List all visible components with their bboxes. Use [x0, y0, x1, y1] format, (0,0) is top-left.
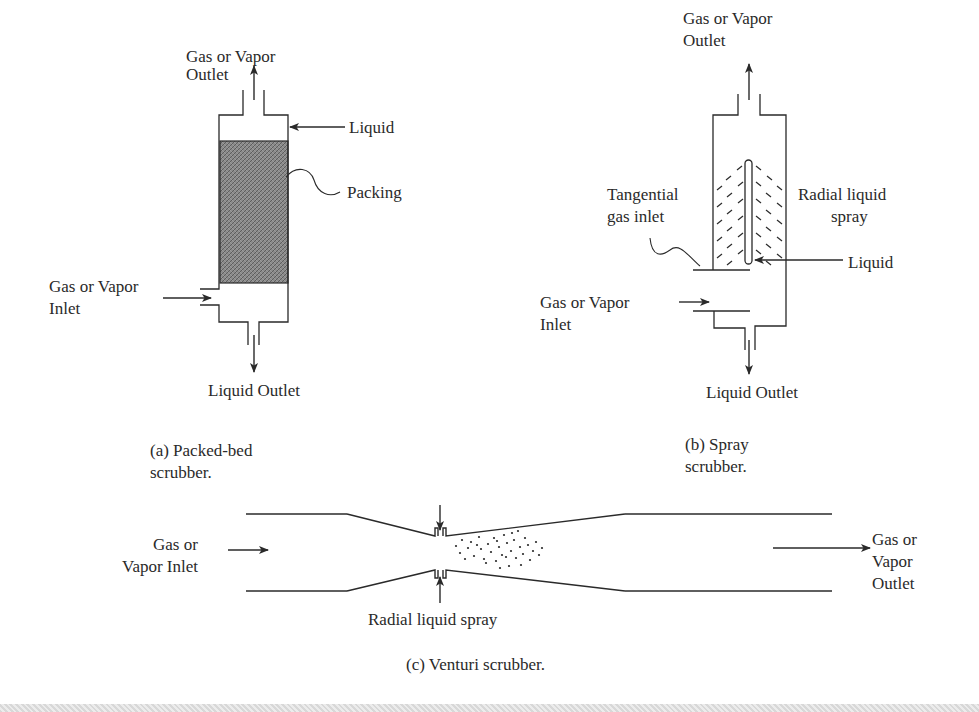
inlet-label-b-2: Inlet: [540, 315, 571, 334]
tangential-label: Tangential: [607, 185, 679, 204]
caption-b: (b) Spray: [685, 435, 749, 454]
packing-label: Packing: [347, 183, 402, 202]
outlet-label-a-2: Outlet: [186, 65, 229, 84]
inlet-label-a-2: Inlet: [49, 299, 80, 318]
scrubber-diagram-figure: Gas or Vapor Outlet Liquid Packing Gas o…: [0, 0, 979, 712]
packing-leader-line: [286, 169, 340, 194]
liquid-label-b: Liquid: [848, 253, 894, 272]
radial-spray-label: Radial liquid: [798, 185, 887, 204]
venturi-droplets-icon: [455, 530, 543, 569]
caption-b-2: scrubber.: [685, 457, 747, 476]
packed-bed-scrubber: Gas or Vapor Outlet Liquid Packing Gas o…: [49, 47, 402, 482]
venturi-lower-diverge: [443, 570, 625, 591]
venturi-upper-converge: [347, 514, 438, 536]
liquid-outlet-label-a: Liquid Outlet: [208, 381, 300, 400]
liquid-label-a: Liquid: [349, 118, 395, 137]
caption-a-2: scrubber.: [150, 463, 212, 482]
outlet-label-a: Gas or Vapor: [186, 47, 276, 66]
tangential-label-2: gas inlet: [607, 207, 664, 226]
radial-spray-label-2: spray: [831, 207, 868, 226]
caption-c: (c) Venturi scrubber.: [406, 655, 545, 674]
inlet-label-b: Gas or Vapor: [540, 293, 630, 312]
venturi-inlet-label-2: Vapor Inlet: [122, 557, 198, 576]
venturi-scrubber: Gas or Vapor Inlet Gas or Vapor Outlet R…: [122, 505, 917, 674]
radial-liquid-spray-label: Radial liquid spray: [368, 610, 498, 629]
venturi-outlet-label: Gas or: [872, 530, 917, 549]
venturi-inlet-label: Gas or: [153, 535, 198, 554]
outlet-label-b-2: Outlet: [683, 31, 726, 50]
venturi-outlet-label-2: Vapor: [872, 552, 913, 571]
inlet-label-a: Gas or Vapor: [49, 277, 139, 296]
venturi-lower-converge: [347, 570, 438, 591]
liquid-outlet-label-b: Liquid Outlet: [706, 383, 798, 402]
caption-a: (a) Packed-bed: [150, 441, 253, 460]
venturi-upper-diverge: [443, 514, 625, 536]
spray-nozzle-tube: [745, 160, 752, 264]
packing-bed: [220, 141, 288, 283]
spray-scrubber: Gas or Vapor Outlet Tangential gas inlet…: [540, 9, 894, 476]
outlet-label-b: Gas or Vapor: [683, 9, 773, 28]
venturi-outlet-label-3: Outlet: [872, 574, 915, 593]
bottom-scan-band: [0, 704, 979, 712]
tangential-leader-line: [650, 238, 700, 266]
